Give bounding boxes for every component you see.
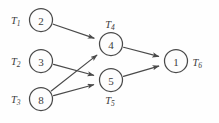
- task-label-subscript-t6: 6: [198, 60, 202, 69]
- node-value-t3: 8: [38, 94, 44, 106]
- node-t1[interactable]: 2: [30, 9, 53, 32]
- task-label-subscript-t4: 4: [111, 23, 115, 32]
- node-t6[interactable]: 1: [165, 50, 188, 73]
- node-value-t6: 1: [173, 56, 179, 68]
- edge-t3-to-t5: [54, 85, 94, 96]
- task-label-subscript-t5: 5: [111, 99, 115, 108]
- task-label-t2: T2: [11, 56, 21, 69]
- node-t5[interactable]: 5: [100, 69, 123, 92]
- task-graph-diagram: 238451 T1T2T3T4T5T6: [0, 0, 219, 123]
- task-label-t4: T4: [105, 19, 115, 32]
- node-value-t2: 3: [38, 56, 44, 68]
- edge-t4-to-t6: [124, 47, 159, 56]
- task-label-t6: T6: [193, 57, 203, 70]
- task-label-subscript-t3: 3: [16, 97, 21, 106]
- node-value-t4: 4: [108, 39, 114, 51]
- edge-t5-to-t6: [123, 66, 158, 76]
- task-label-subscript-t1: 1: [17, 18, 21, 27]
- task-label-t5: T5: [105, 95, 115, 108]
- node-t3[interactable]: 8: [30, 88, 53, 111]
- node-value-t1: 2: [38, 15, 44, 27]
- edge-t1-to-t4: [53, 24, 94, 38]
- graph-canvas: 238451 T1T2T3T4T5T6: [0, 0, 219, 123]
- task-label-subscript-t2: 2: [17, 59, 21, 68]
- task-label-t1: T1: [11, 15, 21, 28]
- task-label-t3: T3: [11, 94, 21, 107]
- node-t4[interactable]: 4: [100, 33, 123, 56]
- node-t2[interactable]: 3: [30, 50, 53, 73]
- node-value-t5: 5: [108, 75, 114, 87]
